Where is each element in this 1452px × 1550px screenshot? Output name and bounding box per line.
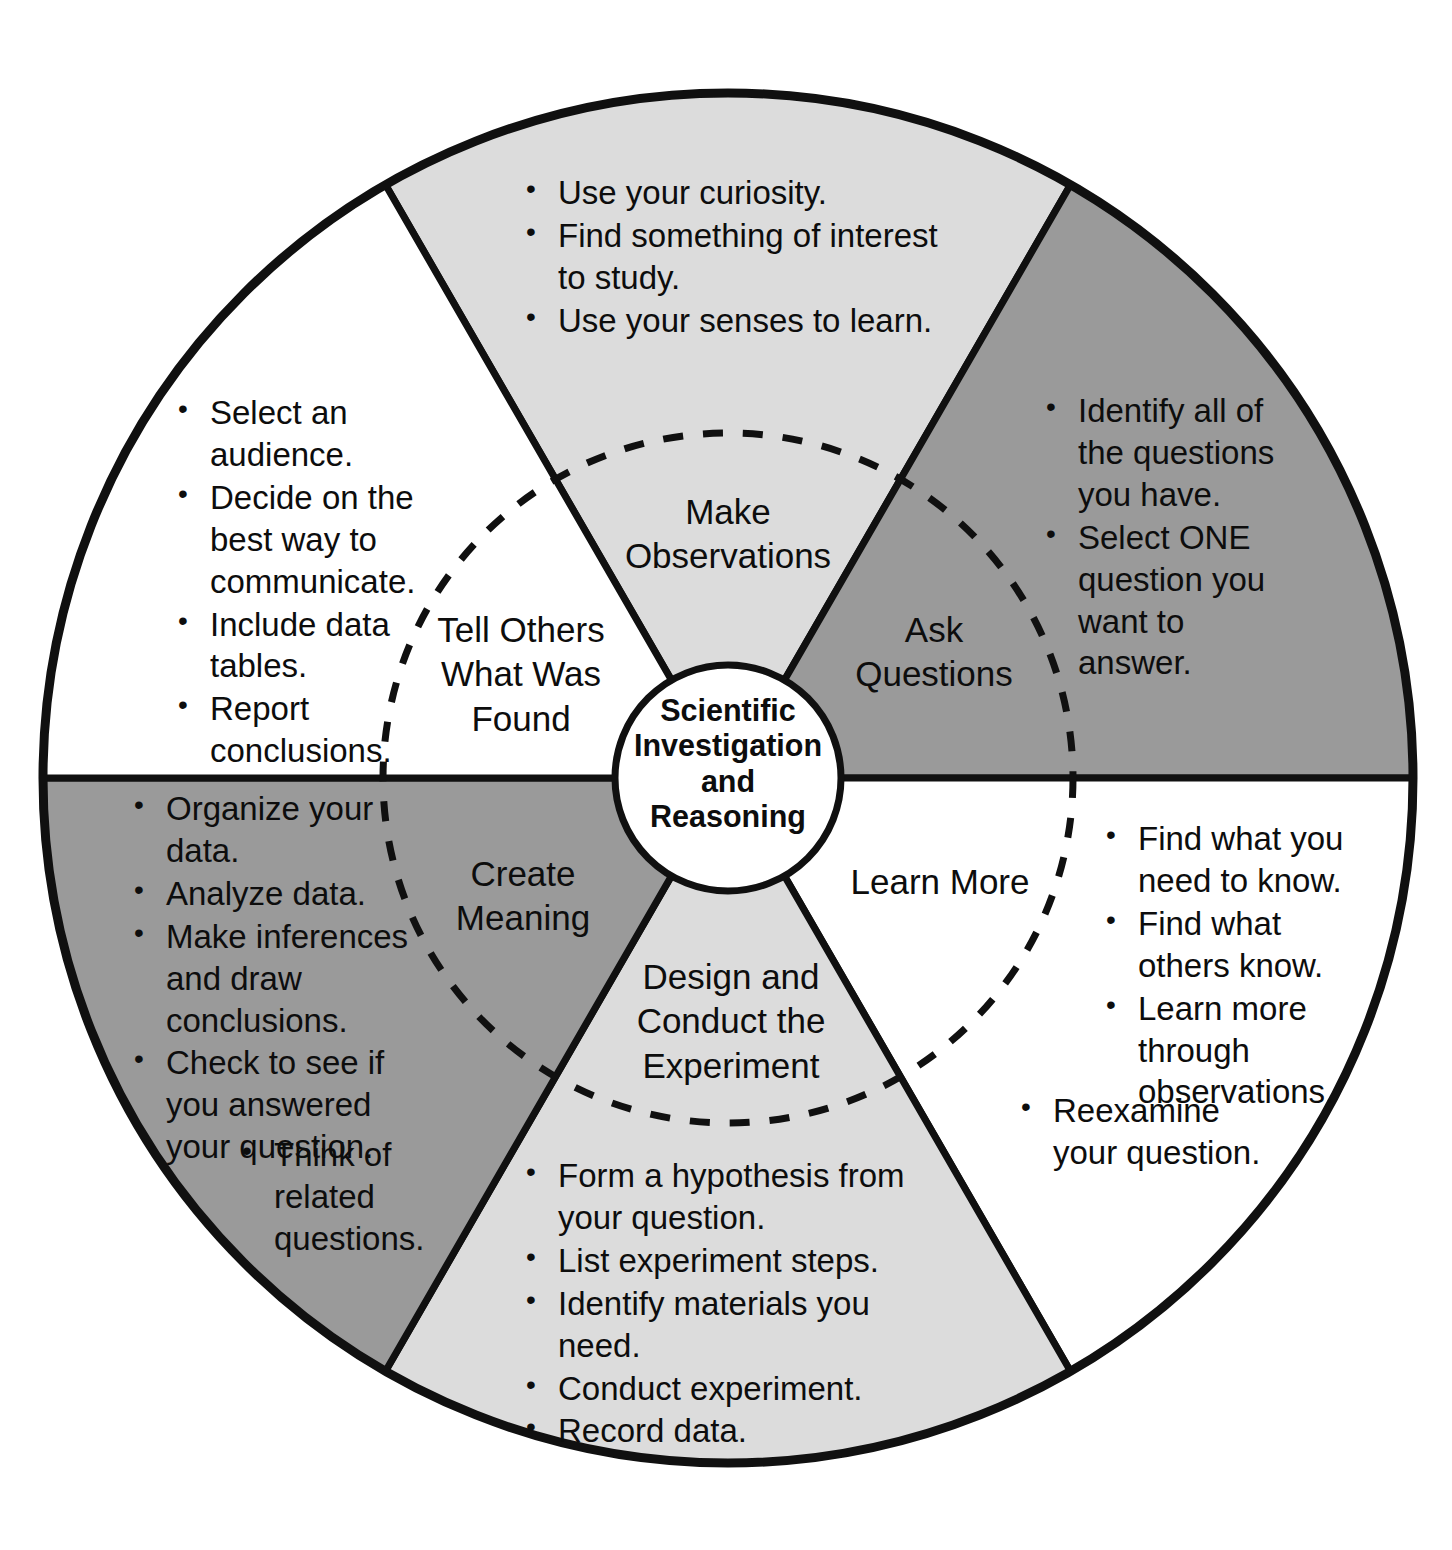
list-item: Find something of interest to study. [520, 215, 940, 299]
list-item: Conduct experiment. [520, 1368, 960, 1410]
bullets-tell-others-what-was-found: Select an audience. Decide on the best w… [172, 392, 424, 773]
bullet-list: Think of related questions. [236, 1134, 496, 1260]
bullet-list: Use your curiosity. Find something of in… [520, 172, 940, 342]
stage-label-create-meaning: Create Meaning [428, 852, 618, 941]
bullets-ask-questions: Identify all of the questions you have. … [1040, 390, 1302, 685]
bullets-make-observations: Use your curiosity. Find something of in… [520, 172, 940, 343]
list-item: Report conclusions. [172, 688, 424, 772]
stage-label-make-observations: Make Observations [600, 490, 856, 579]
list-item: Form a hypothesis from your question. [520, 1155, 960, 1239]
list-item: Think of related questions. [236, 1134, 496, 1260]
list-item: Find what you need to know. [1100, 818, 1350, 902]
bullets-learn-more: Find what you need to know. Find what ot… [1100, 818, 1350, 1114]
stage-label-learn-more: Learn More [830, 860, 1050, 904]
list-item: Analyze data. [128, 873, 440, 915]
list-item: Identify materials you need. [520, 1283, 960, 1367]
list-item: Identify all of the questions you have. [1040, 390, 1302, 516]
bullets-design-and-conduct-the-experiment: Form a hypothesis from your question. Li… [520, 1155, 960, 1453]
bullet-list: Form a hypothesis from your question. Li… [520, 1155, 960, 1452]
hub-label: Scientific Investigation and Reasoning [610, 693, 846, 835]
list-item: Use your curiosity. [520, 172, 940, 214]
bullets-create-meaning-extra: Think of related questions. [236, 1134, 496, 1261]
list-item: Organize your data. [128, 788, 440, 872]
list-item: Select an audience. [172, 392, 424, 476]
scientific-investigation-wheel: Scientific Investigation and Reasoning M… [0, 0, 1452, 1550]
stage-label-design-and-conduct-the-experiment: Design and Conduct the Experiment [606, 955, 856, 1088]
stage-label-tell-others-what-was-found: Tell Others What Was Found [418, 608, 624, 741]
list-item: Include data tables. [172, 604, 424, 688]
list-item: Use your senses to learn. [520, 300, 940, 342]
bullets-create-meaning: Organize your data. Analyze data. Make i… [128, 788, 440, 1169]
list-item: Record data. [520, 1410, 960, 1452]
bullet-list: Organize your data. Analyze data. Make i… [128, 788, 440, 1168]
list-item: Decide on the best way to communicate. [172, 477, 424, 603]
stage-label-ask-questions: Ask Questions [838, 608, 1030, 697]
list-item: Select ONE question you want to answer. [1040, 517, 1302, 685]
bullet-list: Find what you need to know. Find what ot… [1100, 818, 1350, 1113]
bullet-list: Reexamine your question. [1015, 1090, 1275, 1174]
bullet-list: Select an audience. Decide on the best w… [172, 392, 424, 772]
list-item: Make inferences and draw conclusions. [128, 916, 440, 1042]
bullets-learn-more-extra: Reexamine your question. [1015, 1090, 1275, 1175]
list-item: List experiment steps. [520, 1240, 960, 1282]
list-item: Reexamine your question. [1015, 1090, 1275, 1174]
bullet-list: Identify all of the questions you have. … [1040, 390, 1302, 684]
list-item: Find what others know. [1100, 903, 1350, 987]
